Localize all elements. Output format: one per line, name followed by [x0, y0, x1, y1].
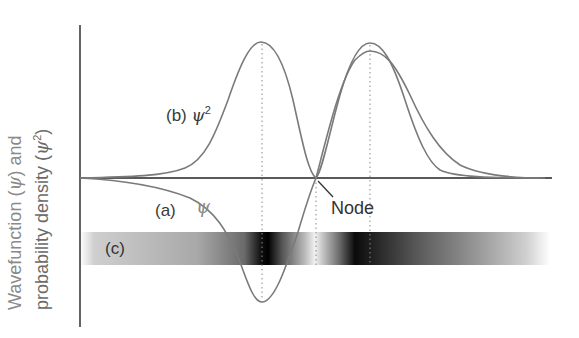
superscript-2: 2: [205, 104, 211, 116]
psi-symbol: ψ: [192, 105, 205, 125]
band-label: (c): [105, 239, 125, 259]
curve-b-prefix: (b): [166, 106, 187, 125]
psi-symbol: ψ: [31, 141, 52, 155]
superscript-2: 2: [31, 135, 43, 141]
node-label: Node: [331, 198, 374, 219]
y-axis-label: Wavefunction (ψ) and probability density…: [4, 10, 53, 310]
electron-density-band: [80, 232, 550, 265]
psi-squared-curve: [80, 42, 540, 178]
curve-b-label: (b) ψ2: [166, 104, 211, 126]
psi-symbol: ψ: [4, 176, 25, 190]
y-label-text-2: probability density (: [32, 155, 52, 310]
y-axis-label-line1: Wavefunction (ψ) and: [4, 10, 26, 310]
diagram-canvas: [0, 0, 579, 338]
y-axis-label-line2: probability density (ψ2): [26, 10, 53, 310]
y-label-text-1: Wavefunction (: [5, 191, 25, 310]
curve-a-symbol: ψ: [196, 196, 210, 217]
y-label-end-2: ): [32, 129, 52, 135]
curve-a-label: (a): [155, 201, 176, 221]
node-pointer-line: [318, 181, 333, 197]
curve-a-prefix: (a): [155, 201, 176, 220]
y-label-end-1: ) and: [5, 135, 25, 176]
